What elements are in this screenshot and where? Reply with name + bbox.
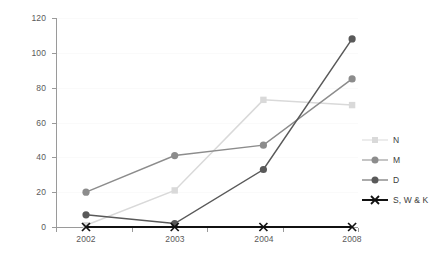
legend-item-n[interactable]: N <box>362 130 445 150</box>
legend-marker-circle-icon <box>372 157 379 164</box>
legend-marker-cross-icon <box>370 191 380 209</box>
legend-swatch <box>362 154 388 166</box>
legend-label: N <box>393 135 399 145</box>
legend-item-d[interactable]: D <box>362 170 445 190</box>
legend-item-m[interactable]: M <box>362 150 445 170</box>
series-d <box>82 35 355 227</box>
legend-label: M <box>393 155 400 165</box>
legend-marker-square-icon <box>372 137 378 143</box>
legend-label: D <box>393 175 399 185</box>
series-n <box>83 97 356 229</box>
series-s-w-k <box>82 223 356 231</box>
legend-swatch <box>362 134 388 146</box>
legend: NMDS, W & K <box>362 130 445 210</box>
legend-swatch <box>362 194 388 206</box>
legend-item-s-w-k[interactable]: S, W & K <box>362 190 445 210</box>
legend-label: S, W & K <box>393 195 428 205</box>
line-chart: 0 20 40 60 80 100 120 2002 2003 2004 200… <box>0 0 445 262</box>
legend-swatch <box>362 174 388 186</box>
legend-marker-circle-icon <box>372 177 379 184</box>
